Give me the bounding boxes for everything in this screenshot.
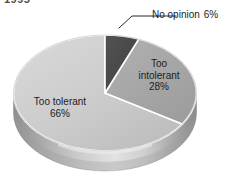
slice-label-no-opinion: No opinion6%: [152, 9, 218, 21]
slice-label-too-intolerant-line2: intolerant: [128, 70, 190, 82]
slice-value-too-tolerant: 66%: [22, 108, 98, 120]
pie-chart-screenshot: 1995: [0, 0, 228, 183]
pie-chart-graphic: [0, 0, 228, 183]
pie-top-face: [14, 35, 197, 151]
pie-chart-svg: [0, 0, 228, 183]
slice-label-too-tolerant-line1: Too tolerant: [22, 96, 98, 108]
slice-value-no-opinion: 6%: [204, 9, 218, 20]
slice-label-too-intolerant: Too intolerant 28%: [128, 58, 190, 93]
slice-label-too-tolerant: Too tolerant 66%: [22, 96, 98, 119]
slice-label-too-intolerant-line1: Too: [128, 58, 190, 70]
slice-value-too-intolerant: 28%: [128, 81, 190, 93]
slice-label-no-opinion-text: No opinion: [152, 9, 200, 20]
